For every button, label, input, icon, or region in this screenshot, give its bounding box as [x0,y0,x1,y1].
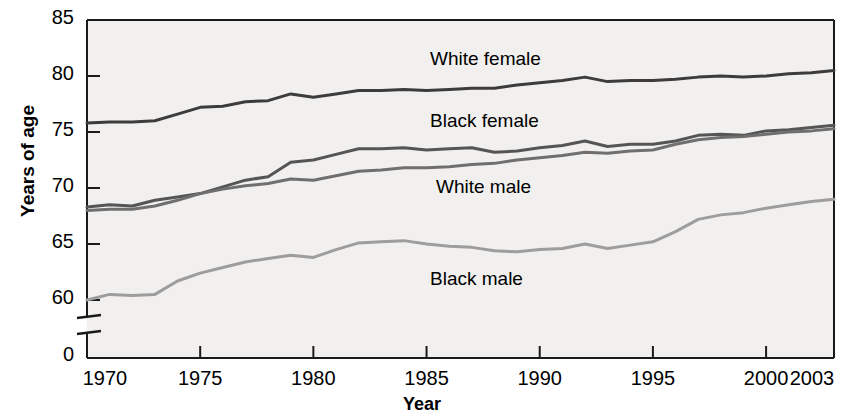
x-tick-label: 1990 [517,367,562,390]
x-tick-label: 1985 [404,367,449,390]
x-axis-title: Year [0,394,844,415]
x-tick-label: 2003 [790,367,835,390]
x-tick-label: 1995 [631,367,676,390]
plot-area [0,0,844,418]
x-tick-label: 1970 [83,367,128,390]
series-label-black-male: Black male [430,268,523,290]
series-label-black-female: Black female [430,110,539,132]
x-tick-label: 2000 [744,367,789,390]
series-label-white-female: White female [430,48,541,70]
life-expectancy-chart: Years of age 6065707580850 1970197519801… [0,0,844,418]
series-label-white-male: White male [436,176,531,198]
x-tick-label: 1980 [291,367,336,390]
x-tick-label: 1975 [178,367,223,390]
